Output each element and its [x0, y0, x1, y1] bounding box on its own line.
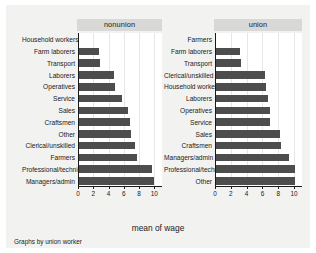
x-axis-line-union	[215, 186, 302, 187]
category-label: Farm laborers	[22, 48, 78, 55]
category-label: Operatives	[22, 83, 78, 90]
bars-union: FarmersFarm laborersTransportClerical/un…	[164, 33, 302, 186]
bar-row: Managers/admin	[164, 152, 302, 164]
category-label: Laborers	[22, 72, 78, 79]
bar-track	[215, 152, 302, 164]
x-tick	[78, 186, 79, 189]
bar-track	[78, 116, 162, 128]
bar-row: Household workers	[22, 34, 162, 46]
bar	[78, 95, 122, 103]
bar-row: Service	[22, 93, 162, 105]
bar	[215, 154, 289, 162]
category-label: Service	[22, 95, 78, 102]
bar-track	[215, 128, 302, 140]
bar-row: Farmers	[22, 152, 162, 164]
category-label: Other	[22, 131, 78, 138]
category-label: Sales	[164, 131, 215, 138]
bar-row: Laborers	[164, 93, 302, 105]
bar	[78, 130, 131, 138]
x-tick-label: 8	[137, 190, 141, 197]
bar	[78, 107, 128, 115]
panel-union: union FarmersFarm laborersTransportCleri…	[164, 19, 304, 215]
panel-title-nonunion: nonunion	[77, 19, 162, 31]
x-tick	[139, 186, 140, 189]
bar-row: Clerical/unskilled	[22, 140, 162, 152]
category-label: Operatives	[164, 107, 215, 114]
bar-row: Operatives	[22, 81, 162, 93]
bar	[215, 130, 280, 138]
category-label: Farmers	[22, 154, 78, 161]
category-label: Transport	[164, 60, 215, 67]
category-label: Laborers	[164, 95, 215, 102]
bar-track	[215, 69, 302, 81]
y-axis-line-union	[215, 33, 216, 186]
bar-row: Farmers	[164, 34, 302, 46]
x-tick	[231, 186, 232, 189]
bars-nonunion: Household workersFarm laborersTransportL…	[22, 33, 162, 186]
bar-row: Operatives	[164, 105, 302, 117]
bar	[78, 165, 152, 173]
category-label: Professional/technical	[164, 166, 215, 173]
bar-track	[215, 116, 302, 128]
x-tick-label: 10	[291, 190, 298, 197]
bar-row: Farm laborers	[22, 46, 162, 58]
bar	[78, 48, 99, 56]
bar-row: Clerical/unskilled	[164, 69, 302, 81]
x-tick	[109, 186, 110, 189]
x-tick	[262, 186, 263, 189]
bar	[215, 165, 295, 173]
bar-track	[215, 58, 302, 70]
x-tick	[278, 186, 279, 189]
bar-track	[78, 69, 162, 81]
bar-track	[215, 105, 302, 117]
bar-track	[215, 81, 302, 93]
bar-track	[215, 93, 302, 105]
x-axis-title: mean of wage	[6, 223, 310, 233]
category-label: Household workers	[22, 36, 78, 43]
bar-track	[215, 34, 302, 46]
x-tick-label: 4	[107, 190, 111, 197]
bar-row: Transport	[164, 58, 302, 70]
bar-row: Laborers	[22, 69, 162, 81]
bar-row: Craftsmen	[164, 140, 302, 152]
bar-row: Sales	[22, 105, 162, 117]
bar-track	[78, 140, 162, 152]
bar	[215, 48, 240, 56]
bar-track	[78, 58, 162, 70]
bar	[78, 142, 135, 150]
category-label: Farmers	[164, 36, 215, 43]
y-axis-line-nonunion	[78, 33, 79, 186]
category-label: Household workers	[164, 83, 215, 90]
bar	[215, 71, 265, 79]
x-axis-line-nonunion	[78, 186, 162, 187]
bar-track	[215, 140, 302, 152]
bar	[215, 118, 270, 126]
bar	[215, 142, 281, 150]
panel-title-union: union	[214, 19, 302, 31]
bar-row: Other	[22, 128, 162, 140]
category-label: Craftsmen	[22, 119, 78, 126]
bar	[78, 59, 100, 67]
bar-row: Household workers	[164, 81, 302, 93]
bar-track	[78, 46, 162, 58]
bar-track	[78, 93, 162, 105]
panel-nonunion: nonunion Household workersFarm laborersT…	[22, 19, 162, 215]
category-label: Professional/technical	[22, 166, 78, 173]
category-label: Transport	[22, 60, 78, 67]
bar	[215, 177, 295, 185]
bar-row: Craftsmen	[22, 116, 162, 128]
category-label: Farm laborers	[164, 48, 215, 55]
bar-row: Professional/technical	[22, 163, 162, 175]
bar	[215, 95, 268, 103]
bar	[215, 83, 266, 91]
x-tick-label: 6	[261, 190, 265, 197]
bar-row: Service	[164, 116, 302, 128]
bar	[78, 154, 137, 162]
x-tick-label: 8	[276, 190, 280, 197]
category-label: Clerical/unskilled	[164, 72, 215, 79]
bar-track	[78, 34, 162, 46]
x-tick-label: 0	[76, 190, 80, 197]
x-tick-label: 2	[229, 190, 233, 197]
category-label: Other	[164, 178, 215, 185]
x-tick-label: 4	[245, 190, 249, 197]
